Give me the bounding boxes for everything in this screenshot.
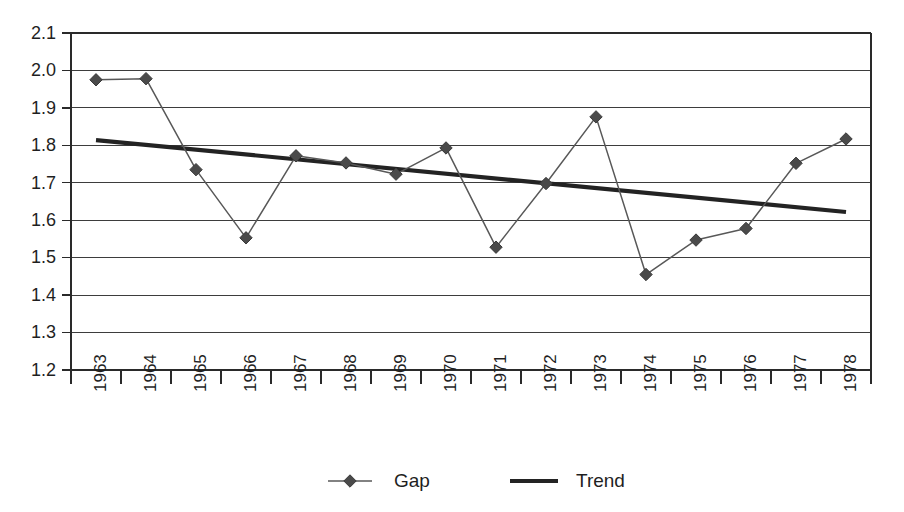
legend-item-label: Gap <box>394 470 430 491</box>
x-axis-tick-label: 1964 <box>141 354 160 392</box>
x-axis-tick-label: 1968 <box>341 354 360 392</box>
x-axis-tick-label: 1969 <box>391 354 410 392</box>
chart-background <box>0 0 904 512</box>
x-axis-tick-label: 1970 <box>441 354 460 392</box>
x-axis-tick-label: 1974 <box>641 354 660 392</box>
x-axis-tick-label: 1966 <box>241 354 260 392</box>
x-axis-tick-label: 1963 <box>91 354 110 392</box>
x-axis-tick-label: 1978 <box>841 354 860 392</box>
x-axis-tick-label: 1976 <box>741 354 760 392</box>
y-axis-tick-label: 1.2 <box>31 360 56 380</box>
x-axis-tick-label: 1971 <box>491 354 510 392</box>
y-axis-tick-label: 1.4 <box>31 285 56 305</box>
y-axis-tick-label: 1.9 <box>31 98 56 118</box>
x-axis-tick-label: 1967 <box>291 354 310 392</box>
chart-figure: 2.12.01.91.81.71.61.51.41.31.2 196319641… <box>0 0 904 512</box>
legend-item-label: Trend <box>576 470 625 491</box>
y-axis-tick-label: 1.6 <box>31 210 56 230</box>
y-axis-tick-label: 1.3 <box>31 322 56 342</box>
x-axis-tick-label: 1975 <box>691 354 710 392</box>
x-axis-tick-label: 1973 <box>591 354 610 392</box>
x-axis-tick-label: 1977 <box>791 354 810 392</box>
y-axis-tick-label: 2.1 <box>31 23 56 43</box>
line-chart-canvas: 2.12.01.91.81.71.61.51.41.31.2 196319641… <box>0 0 904 512</box>
y-axis-tick-label: 1.8 <box>31 135 56 155</box>
y-axis-tick-label: 1.7 <box>31 173 56 193</box>
y-axis-tick-label: 2.0 <box>31 60 56 80</box>
y-axis-tick-label: 1.5 <box>31 247 56 267</box>
x-axis-tick-label: 1965 <box>191 354 210 392</box>
x-axis-tick-label: 1972 <box>541 354 560 392</box>
